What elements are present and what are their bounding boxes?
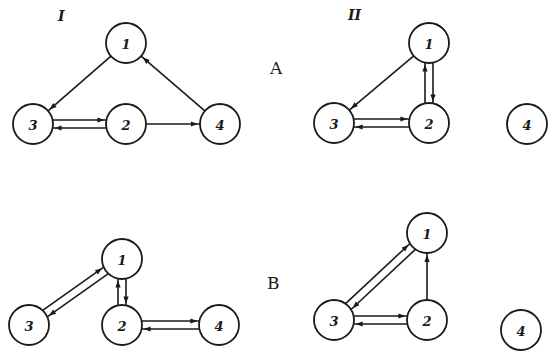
node-label: 1: [117, 253, 126, 268]
node-label: 3: [28, 118, 37, 133]
panel-a-i-nodes: 1234: [13, 23, 240, 144]
arrowhead-icon: [356, 124, 363, 129]
node-1: 1: [409, 23, 449, 63]
node-2: 2: [407, 300, 447, 340]
node-label: 2: [421, 314, 431, 329]
graph-diagram-canvas: 1234123412341234: [0, 0, 552, 355]
node-3: 3: [9, 305, 49, 345]
node-label: 2: [423, 117, 433, 132]
node-label: 2: [120, 118, 130, 133]
node-4: 4: [501, 310, 541, 350]
edges-layer: [43, 56, 436, 332]
node-2: 2: [102, 305, 142, 345]
arrowhead-icon: [144, 326, 151, 331]
arrowhead-icon: [97, 117, 104, 122]
node-4: 4: [200, 104, 240, 144]
node-1: 1: [407, 213, 447, 253]
edge-1-to-3: [47, 274, 108, 317]
node-4: 4: [199, 305, 239, 345]
arrowhead-icon: [55, 125, 62, 130]
arrowhead-icon: [191, 121, 198, 126]
node-label: 2: [116, 319, 126, 334]
node-label: 4: [215, 118, 224, 133]
nodes-layer: 1234123412341234: [9, 23, 547, 350]
node-label: 3: [329, 117, 338, 132]
node-3: 3: [13, 104, 53, 144]
node-1: 1: [102, 239, 142, 279]
edge-3-to-1: [43, 267, 104, 310]
arrowhead-icon: [115, 281, 120, 288]
node-2: 2: [106, 104, 146, 144]
node-label: 3: [329, 314, 338, 329]
arrowhead-icon: [123, 296, 128, 303]
node-label: 4: [214, 319, 223, 334]
node-1: 1: [106, 23, 146, 63]
panel-b-i-nodes: 1234: [9, 239, 239, 345]
node-3: 3: [314, 103, 354, 143]
node-label: 3: [24, 319, 33, 334]
node-label: 4: [522, 118, 531, 133]
node-label: 1: [424, 37, 433, 52]
arrowhead-icon: [190, 318, 197, 323]
edge-1-to-3: [349, 56, 413, 110]
node-label: 1: [422, 227, 431, 242]
node-3: 3: [314, 300, 354, 340]
arrowhead-icon: [422, 65, 427, 72]
edge-1-to-3: [48, 56, 111, 111]
node-label: 1: [121, 37, 130, 52]
node-2: 2: [409, 103, 449, 143]
arrowhead-icon: [400, 116, 407, 121]
edge-3-to-1: [346, 243, 410, 303]
arrowhead-icon: [430, 94, 435, 101]
arrowhead-icon: [424, 255, 429, 262]
node-4: 4: [507, 104, 547, 144]
edge-4-to-1: [141, 56, 205, 111]
panel-a-ii-nodes: 1234: [314, 23, 547, 144]
node-label: 4: [516, 324, 525, 339]
arrowhead-icon: [398, 313, 405, 318]
edge-1-to-3: [351, 249, 415, 309]
arrowhead-icon: [356, 321, 363, 326]
